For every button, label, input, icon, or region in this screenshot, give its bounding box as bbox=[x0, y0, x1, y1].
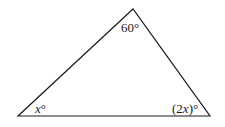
angle-label-top: 60° bbox=[121, 20, 139, 35]
angle-suffix: )° bbox=[189, 101, 199, 116]
angle-label-bottom-left: x° bbox=[34, 101, 46, 116]
triangle bbox=[18, 9, 210, 116]
degree-symbol: ° bbox=[41, 101, 46, 116]
angle-prefix: (2 bbox=[172, 101, 183, 116]
angle-label-bottom-right: (2x)° bbox=[172, 101, 198, 116]
triangle-diagram: 60° x° (2x)° bbox=[0, 0, 225, 127]
